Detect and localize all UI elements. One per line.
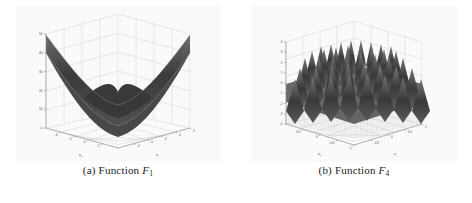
axis-label-b-x2: x2	[317, 151, 322, 157]
caption-a-word: Function	[99, 164, 140, 176]
z-tick-label-b-3: -1	[279, 91, 282, 95]
figure-container: 0 10 20 30 40 50	[0, 0, 472, 203]
axis-label-a-x2: x2	[78, 152, 83, 158]
x2-ticks-a: -4 -2 0 2	[54, 132, 101, 148]
x1-tick-label-a-3: 4	[179, 133, 181, 137]
plot-b-svg: -4 -3 -2 -1 0 1 2 3 4	[252, 6, 457, 161]
x1-tick-label-b-3: 1	[425, 125, 427, 129]
z-tick-label-b-8: 4	[280, 40, 282, 44]
x2-tick-label-a-2: 0	[83, 140, 85, 144]
x2-tick-label-a-0: -4	[54, 133, 57, 137]
z-tick-label-b-7: 3	[280, 50, 282, 54]
x2-tick-label-b-3: -1	[348, 146, 351, 150]
x1-tick-label-a-4: 5	[193, 129, 195, 133]
plot-a-surface-F1: 0 10 20 30 40 50	[16, 6, 221, 161]
z-tick-label-b-1: -3	[279, 112, 282, 116]
z-tick-label-a-1: 10	[39, 107, 43, 111]
plot-b-surface-F4: -4 -3 -2 -1 0 1 2 3 4	[252, 6, 457, 161]
subfigure-a: 0 10 20 30 40 50	[0, 0, 236, 203]
caption-a-subscript: 1	[149, 169, 153, 178]
z-tick-label-a-2: 20	[39, 89, 43, 93]
z-tick-label-a-3: 30	[39, 70, 43, 74]
z-tick-label-b-2: -2	[279, 102, 282, 106]
caption-b-word: Function	[335, 164, 376, 176]
z-tick-label-a-5: 50	[39, 32, 43, 36]
z-tick-label-b-5: 1	[280, 71, 282, 75]
x2-tick-label-a-3: 2	[97, 144, 99, 148]
x1-tick-label-a-2: 2	[165, 137, 167, 141]
z-tick-label-b-0: -4	[279, 122, 282, 126]
x1-tick-label-b-2: 0.5	[408, 130, 413, 134]
z-tick-label-a-4: 40	[39, 51, 43, 55]
subfigure-b: -4 -3 -2 -1 0 1 2 3 4	[236, 0, 472, 203]
plot-a-svg: 0 10 20 30 40 50	[16, 6, 221, 161]
z-ticks-a: 0 10 20 30 40 50	[39, 32, 46, 130]
x2-tick-label-b-1: 0	[315, 135, 317, 139]
caption-b-subscript: 4	[386, 169, 390, 178]
x2-tick-label-a-1: -2	[68, 137, 71, 141]
caption-b-prefix: (b)	[319, 164, 332, 176]
x1-tick-label-a-1: 0	[151, 140, 153, 144]
x1-tick-label-b-1: 0	[391, 135, 393, 139]
axis-label-a-x1: x1	[155, 152, 160, 158]
x2-tick-label-b-0: 0.5	[296, 130, 301, 134]
z-tick-label-a-0: 0	[40, 126, 42, 130]
x2-tick-label-b-2: -0.5	[329, 141, 335, 145]
x1-tick-label-a-0: -2	[137, 144, 140, 148]
x1-tick-label-b-0: -0.5	[374, 141, 380, 145]
caption-a-prefix: (a)	[83, 164, 96, 176]
z-ticks-b: -4 -3 -2 -1 0 1 2 3 4	[279, 40, 285, 126]
axis-label-b-x1: x1	[393, 151, 398, 157]
z-tick-label-b-4: 0	[280, 81, 282, 85]
caption-a: (a) Function F1	[83, 164, 153, 176]
z-tick-label-b-6: 2	[280, 61, 282, 65]
caption-b-symbol: F	[379, 164, 386, 176]
caption-b: (b) Function F4	[319, 164, 390, 176]
